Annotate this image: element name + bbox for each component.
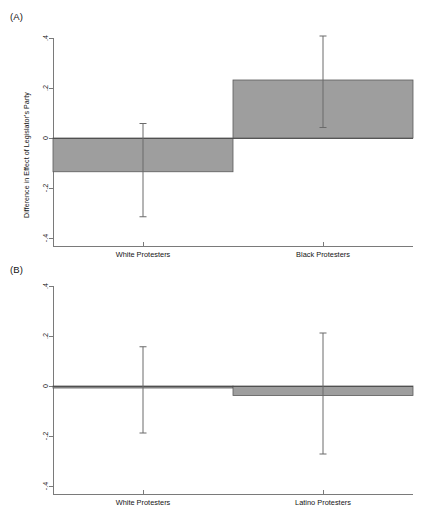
y-tick-label: 0 xyxy=(41,384,50,388)
panel-b: (B) Difference in Effect of Legislator's… xyxy=(0,258,421,511)
y-tick-label: .4 xyxy=(41,283,50,289)
x-category-label-0: White Protesters xyxy=(116,250,171,258)
y-tick-label: .2 xyxy=(41,333,50,339)
y-tick-label: -.2 xyxy=(41,432,50,440)
panel-a-svg: -.4-.20.2.4White ProtestersBlack Protest… xyxy=(30,28,420,258)
panel-b-tag: (B) xyxy=(10,264,23,275)
y-tick-label: -.2 xyxy=(41,184,50,192)
x-category-label-1: Latino Protesters xyxy=(295,498,351,506)
figure-container: (A) Difference in Effect of Legislator's… xyxy=(0,0,421,511)
y-tick-label: -.4 xyxy=(41,482,50,490)
panel-a-plot-area: -.4-.20.2.4White ProtestersBlack Protest… xyxy=(30,28,420,258)
y-tick-label: -.4 xyxy=(41,234,50,242)
y-tick-label: 0 xyxy=(41,136,50,140)
panel-b-svg: -.4-.20.2.4White ProtestersLatino Protes… xyxy=(30,276,420,506)
y-tick-label: .2 xyxy=(41,85,50,91)
panel-a-tag: (A) xyxy=(10,11,23,22)
y-tick-label: .4 xyxy=(41,35,50,41)
panel-b-plot-area: -.4-.20.2.4White ProtestersLatino Protes… xyxy=(30,276,420,506)
panel-a: (A) Difference in Effect of Legislator's… xyxy=(0,0,421,258)
x-category-label-1: Black Protesters xyxy=(296,250,350,258)
x-category-label-0: White Protesters xyxy=(116,498,171,506)
